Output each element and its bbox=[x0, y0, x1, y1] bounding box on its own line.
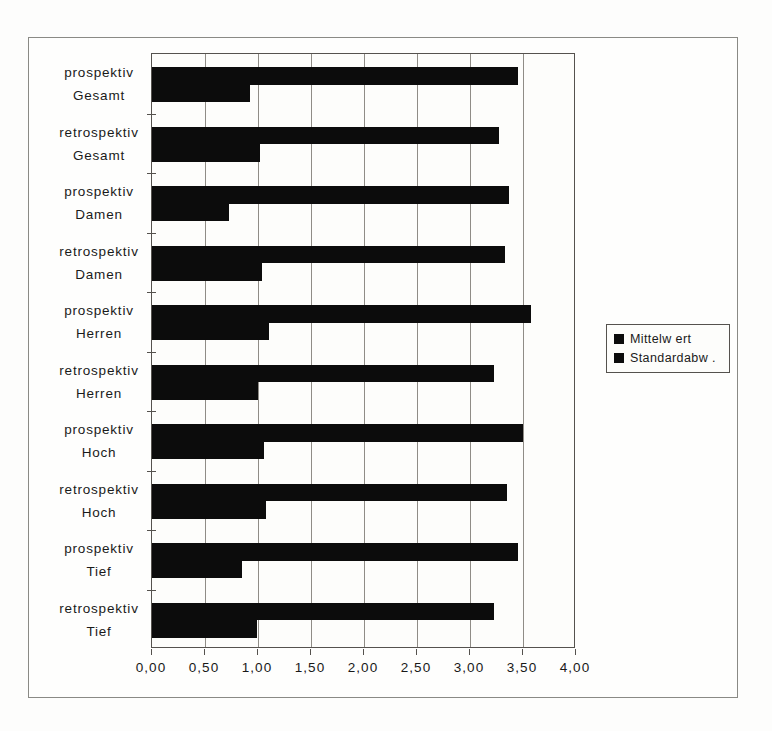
bar-standardabw-5 bbox=[152, 382, 258, 400]
y-axis-tick bbox=[147, 292, 156, 293]
category-label-9: retrospektivTief bbox=[45, 597, 153, 643]
chart-canvas: prospektivGesamtretrospektivGesamtprospe… bbox=[0, 0, 772, 731]
x-tick-label-6: 3,00 bbox=[454, 660, 484, 675]
category-label-5: retrospektivHerren bbox=[45, 359, 153, 405]
category-label-line: Gesamt bbox=[45, 84, 153, 107]
x-axis-tick bbox=[363, 649, 364, 655]
category-label-line: prospektiv bbox=[45, 180, 153, 203]
category-label-line: prospektiv bbox=[45, 537, 153, 560]
category-label-6: prospektivHoch bbox=[45, 418, 153, 464]
x-axis-tick bbox=[204, 649, 205, 655]
category-label-line: Tief bbox=[45, 620, 153, 643]
bar-standardabw-6 bbox=[152, 442, 264, 460]
x-axis-tick bbox=[575, 649, 576, 655]
category-label-4: prospektivHerren bbox=[45, 299, 153, 345]
category-label-8: prospektivTief bbox=[45, 537, 153, 583]
legend-swatch-standardabw-icon bbox=[614, 353, 624, 363]
y-axis-tick bbox=[147, 233, 156, 234]
category-label-line: retrospektiv bbox=[45, 240, 153, 263]
x-tick-label-8: 4,00 bbox=[560, 660, 590, 675]
category-label-line: prospektiv bbox=[45, 418, 153, 441]
bar-standardabw-9 bbox=[152, 620, 257, 638]
category-label-3: retrospektivDamen bbox=[45, 240, 153, 286]
category-label-line: retrospektiv bbox=[45, 597, 153, 620]
category-label-line: Damen bbox=[45, 263, 153, 286]
bar-standardabw-0 bbox=[152, 85, 250, 103]
y-axis-tick bbox=[147, 114, 156, 115]
legend-item-standardabw: Standardabw . bbox=[614, 351, 723, 365]
bar-mittelwert-5 bbox=[152, 365, 494, 383]
x-axis-tick bbox=[151, 649, 152, 655]
legend-item-mittelwert: Mittelw ert bbox=[614, 332, 723, 346]
bar-standardabw-2 bbox=[152, 204, 229, 222]
bar-standardabw-4 bbox=[152, 323, 269, 341]
x-tick-label-5: 2,50 bbox=[401, 660, 431, 675]
bar-mittelwert-1 bbox=[152, 127, 499, 145]
category-label-7: retrospektivHoch bbox=[45, 478, 153, 524]
x-axis-tick bbox=[310, 649, 311, 655]
category-label-line: Hoch bbox=[45, 501, 153, 524]
bar-mittelwert-4 bbox=[152, 305, 531, 323]
gridline bbox=[523, 54, 524, 647]
category-label-2: prospektivDamen bbox=[45, 180, 153, 226]
bar-standardabw-7 bbox=[152, 501, 266, 519]
plot-area bbox=[151, 53, 575, 648]
x-axis-tick bbox=[522, 649, 523, 655]
x-tick-label-2: 1,00 bbox=[242, 660, 272, 675]
bar-mittelwert-9 bbox=[152, 603, 494, 621]
category-label-line: Damen bbox=[45, 203, 153, 226]
y-axis-tick bbox=[147, 471, 156, 472]
bar-mittelwert-2 bbox=[152, 186, 509, 204]
category-label-1: retrospektivGesamt bbox=[45, 121, 153, 167]
y-axis-tick bbox=[147, 530, 156, 531]
legend-label-mittelwert: Mittelw ert bbox=[630, 332, 691, 346]
legend: Mittelw ert Standardabw . bbox=[606, 324, 730, 373]
y-axis-tick bbox=[147, 411, 156, 412]
x-tick-label-1: 0,50 bbox=[189, 660, 219, 675]
category-label-line: retrospektiv bbox=[45, 121, 153, 144]
category-label-line: prospektiv bbox=[45, 299, 153, 322]
x-axis-tick bbox=[469, 649, 470, 655]
bar-mittelwert-3 bbox=[152, 246, 505, 264]
category-label-line: Herren bbox=[45, 382, 153, 405]
category-label-line: Tief bbox=[45, 560, 153, 583]
category-label-line: prospektiv bbox=[45, 61, 153, 84]
bar-mittelwert-8 bbox=[152, 543, 518, 561]
category-label-line: retrospektiv bbox=[45, 359, 153, 382]
bar-standardabw-1 bbox=[152, 144, 260, 162]
legend-swatch-mittelwert-icon bbox=[614, 334, 624, 344]
bar-mittelwert-6 bbox=[152, 424, 523, 442]
x-tick-label-0: 0,00 bbox=[136, 660, 166, 675]
y-axis-tick bbox=[147, 173, 156, 174]
bar-standardabw-8 bbox=[152, 561, 242, 579]
x-tick-label-3: 1,50 bbox=[295, 660, 325, 675]
legend-label-standardabw: Standardabw . bbox=[630, 351, 716, 365]
chart-frame: prospektivGesamtretrospektivGesamtprospe… bbox=[28, 37, 738, 698]
bar-mittelwert-0 bbox=[152, 67, 518, 85]
category-label-line: Herren bbox=[45, 322, 153, 345]
bar-mittelwert-7 bbox=[152, 484, 507, 502]
category-label-line: Gesamt bbox=[45, 144, 153, 167]
category-label-0: prospektivGesamt bbox=[45, 61, 153, 107]
x-tick-label-7: 3,50 bbox=[507, 660, 537, 675]
x-tick-label-4: 2,00 bbox=[348, 660, 378, 675]
x-axis-tick bbox=[257, 649, 258, 655]
x-axis-tick bbox=[416, 649, 417, 655]
y-axis-tick bbox=[147, 352, 156, 353]
y-axis-tick bbox=[147, 590, 156, 591]
bar-standardabw-3 bbox=[152, 263, 262, 281]
category-label-line: retrospektiv bbox=[45, 478, 153, 501]
category-label-line: Hoch bbox=[45, 441, 153, 464]
